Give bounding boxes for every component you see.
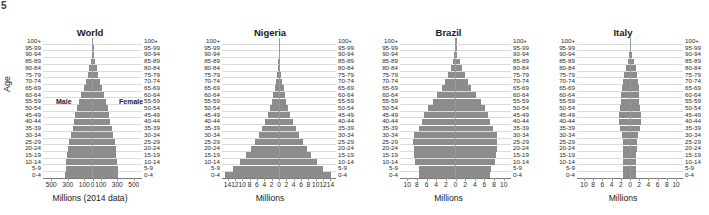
bar-female [279, 126, 296, 132]
pyramid-panel-italy: Italy100+95-9990-9485-8980-8475-7970-746… [537, 0, 709, 215]
plot-area-world [43, 38, 142, 179]
bar-female [93, 99, 106, 105]
bar-male [620, 126, 630, 132]
bar-female [93, 166, 118, 172]
pyramid-panel-world: WorldAge100+95-9990-9485-8980-8475-7970-… [0, 0, 180, 215]
bar-female [93, 105, 109, 111]
x-tick-label: 2 [270, 181, 274, 188]
bar-male [428, 105, 456, 111]
x-tick-label: 10 [239, 181, 246, 188]
x-tick-label: 2 [619, 181, 623, 188]
bar-male [240, 159, 279, 165]
age-tick-label: 0-4 [513, 172, 537, 179]
x-tick-label: 300 [112, 181, 123, 188]
age-tick-label: 0-4 [10, 172, 41, 179]
age-tick-label: 0-4 [543, 172, 575, 179]
bar-male [619, 112, 630, 118]
bar-female [456, 85, 472, 91]
center-axis-line [455, 38, 456, 179]
bar-female [93, 79, 101, 85]
bar-female [630, 105, 640, 111]
x-tick-label: 0 [628, 181, 632, 188]
bar-female [93, 92, 105, 98]
bar-female [630, 159, 636, 165]
bar-female [279, 112, 290, 118]
bar-female [93, 119, 111, 125]
x-tick-label: 4 [262, 181, 266, 188]
bar-female [630, 119, 641, 125]
age-tick-labels-lft-brazil: 100+95-9990-9485-8980-8475-7970-7465-696… [366, 38, 398, 179]
bar-male [433, 99, 456, 105]
age-tick-label: 0-4 [366, 172, 398, 179]
age-tick-labels-lft-italy: 100+95-9990-9485-8980-8475-7970-7465-696… [543, 38, 575, 179]
bar-male [74, 119, 93, 125]
bar-female [630, 85, 639, 91]
bar-female [456, 112, 489, 118]
x-tick-labels-brazil: 1086420246810 [400, 181, 511, 191]
bar-female [456, 65, 463, 71]
x-tick-label: 100 [95, 181, 106, 188]
bar-male [437, 92, 455, 98]
x-tick-labels-world: 5003001000100300500 [43, 181, 142, 191]
bar-male [233, 166, 279, 172]
bar-female [93, 146, 116, 152]
bar-female [630, 65, 636, 71]
bar-female [93, 112, 110, 118]
bar-male [71, 132, 93, 138]
bar-male [419, 126, 456, 132]
bar-female [630, 152, 636, 158]
bar-female [456, 152, 496, 158]
bar-female [456, 159, 495, 165]
x-tick-label: 2 [463, 181, 467, 188]
pyramid-panel-brazil: Brazil100+95-9990-9485-8980-8475-7970-74… [360, 0, 537, 215]
x-axis-title-italy: Millions [537, 193, 709, 203]
bar-female [630, 92, 639, 98]
bar-male [251, 146, 279, 152]
age-tick-label: 0-4 [144, 172, 178, 179]
bar-female [630, 112, 641, 118]
bar-female [630, 139, 637, 145]
x-tick-label: 14 [327, 181, 334, 188]
bar-male [445, 79, 455, 85]
x-tick-label: 100 [79, 181, 90, 188]
bar-male [268, 112, 279, 118]
bar-male [259, 132, 279, 138]
x-tick-labels-italy: 1086420246810 [577, 181, 683, 191]
population-pyramid-figure: WorldAge100+95-9990-9485-8980-8475-7970-… [0, 0, 709, 215]
bar-female [93, 65, 97, 71]
x-tick-label: 8 [248, 181, 252, 188]
bar-female [93, 85, 102, 91]
x-tick-label: 4 [292, 181, 296, 188]
bar-male [66, 166, 93, 172]
x-tick-label: 8 [591, 181, 595, 188]
bar-female [279, 105, 288, 111]
x-tick-label: 6 [299, 181, 303, 188]
bar-female [456, 79, 469, 85]
age-tick-labels-rgt-world: 100+95-9990-9485-8980-8475-7970-7465-696… [144, 38, 178, 179]
bar-female [456, 72, 465, 78]
x-tick-labels-nigeria: 141210864202468101214 [222, 181, 336, 191]
bar-male [442, 85, 456, 91]
bar-female [456, 139, 498, 145]
x-tick-label: 12 [319, 181, 326, 188]
bar-female [456, 92, 477, 98]
x-tick-label: 4 [647, 181, 651, 188]
x-tick-label: 6 [425, 181, 429, 188]
bar-female [456, 132, 498, 138]
plot-area-nigeria [222, 38, 336, 179]
bar-female [279, 139, 303, 145]
x-tick-label: 6 [656, 181, 660, 188]
bar-female [93, 72, 99, 78]
bar-male [69, 139, 93, 145]
bar-female [456, 119, 491, 125]
bar-male [414, 152, 456, 158]
bar-female [279, 146, 307, 152]
x-tick-label: 14 [224, 181, 231, 188]
bar-male [262, 126, 279, 132]
x-tick-label: 4 [610, 181, 614, 188]
x-tick-label: 10 [312, 181, 319, 188]
age-tick-labels-rgt-italy: 100+95-9990-9485-8980-8475-7970-7465-696… [685, 38, 709, 179]
x-tick-label: 6 [483, 181, 487, 188]
bar-male [77, 105, 93, 111]
bar-male [81, 92, 92, 98]
